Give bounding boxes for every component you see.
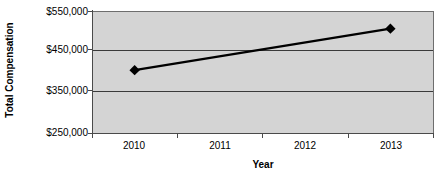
x-tick-label-2012: 2012 xyxy=(275,141,335,151)
x-tick-mark-3 xyxy=(348,134,349,138)
y-tick-label-350000: $350,000 xyxy=(22,86,88,96)
series-total-compensation xyxy=(92,12,433,134)
y-axis-title: Total Compensation xyxy=(0,0,20,140)
x-tick-mark-2 xyxy=(262,134,263,138)
plot-area xyxy=(92,11,434,134)
x-axis-line xyxy=(92,133,434,134)
x-tick-label-2010: 2010 xyxy=(104,141,164,151)
y-tick-label-550000: $550,000 xyxy=(22,7,88,17)
x-tick-mark-0 xyxy=(92,134,93,138)
x-tick-mark-1 xyxy=(177,134,178,138)
compensation-line-chart: Total Compensation $550,000 $450,000 $35… xyxy=(0,0,443,185)
y-axis-line xyxy=(92,10,93,134)
data-point-marker-2010 xyxy=(129,65,139,75)
x-tick-label-2011: 2011 xyxy=(190,141,250,151)
data-point-marker-2013 xyxy=(385,23,395,33)
series-line xyxy=(135,29,391,70)
plot-inner xyxy=(92,12,433,134)
y-axis-title-text: Total Compensation xyxy=(5,22,15,117)
y-tick-label-450000: $450,000 xyxy=(22,45,88,55)
y-tick-label-250000: $250,000 xyxy=(22,128,88,138)
x-axis-title: Year xyxy=(92,160,434,170)
y-axis-tick-labels: $550,000 $450,000 $350,000 $250,000 xyxy=(20,0,88,185)
x-tick-label-2013: 2013 xyxy=(361,141,421,151)
x-tick-mark-4 xyxy=(433,134,434,138)
